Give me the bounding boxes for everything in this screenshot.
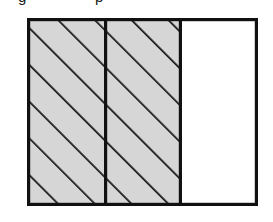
part-3-unshaded-region	[180, 18, 258, 206]
diagonal-hatch-overlay	[27, 18, 180, 206]
fraction-bar-figure: g p	[0, 0, 273, 222]
fraction-bar-diagram	[0, 0, 273, 222]
